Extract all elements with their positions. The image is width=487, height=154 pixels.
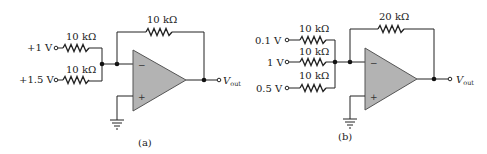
feedback-resistor-label-b: 20 kΩ bbox=[379, 11, 409, 22]
noninverting-sign: + bbox=[370, 92, 378, 102]
input-terminal-b-1 bbox=[285, 38, 289, 42]
ground-icon bbox=[110, 120, 124, 129]
resistor-label-b-2: 10 kΩ bbox=[299, 46, 329, 57]
input-voltage-a-2: +1.5 V bbox=[19, 74, 54, 85]
noninverting-sign: + bbox=[138, 92, 146, 102]
resistor-icon bbox=[378, 26, 404, 33]
resistor-icon bbox=[300, 59, 326, 66]
input-voltage-b-1: 0.1 V bbox=[255, 35, 282, 46]
resistor-icon bbox=[63, 77, 89, 84]
caption-b: (b) bbox=[338, 131, 352, 142]
input-voltage-a-1: +1 V bbox=[27, 42, 53, 53]
resistor-label-a-1: 10 kΩ bbox=[66, 31, 96, 42]
circuit-diagrams: +1 V 10 kΩ +1.5 V 10 kΩ 10 kΩ − + bbox=[0, 0, 487, 154]
junction-dot bbox=[333, 60, 338, 65]
caption-a: (a) bbox=[138, 137, 152, 148]
circuit-b: 0.1 V 10 kΩ 1 V 10 kΩ 0.5 V 10 kΩ 20 kΩ bbox=[255, 11, 474, 142]
junction-dot bbox=[202, 78, 207, 83]
resistor-label-a-2: 10 kΩ bbox=[66, 64, 96, 75]
input-terminal-a-2 bbox=[54, 78, 58, 82]
input-terminal-b-3 bbox=[285, 86, 289, 90]
resistor-label-b-1: 10 kΩ bbox=[299, 23, 329, 34]
resistor-label-b-3: 10 kΩ bbox=[299, 70, 329, 81]
resistor-icon bbox=[300, 85, 326, 92]
ground-icon bbox=[343, 119, 357, 128]
circuit-a: +1 V 10 kΩ +1.5 V 10 kΩ 10 kΩ − + bbox=[19, 14, 241, 148]
output-label-a: Vout bbox=[223, 75, 241, 88]
feedback-resistor-label-a: 10 kΩ bbox=[147, 14, 177, 25]
input-terminal-b-2 bbox=[285, 60, 289, 64]
input-voltage-b-2: 1 V bbox=[267, 57, 285, 68]
resistor-icon bbox=[300, 37, 326, 44]
resistor-icon bbox=[146, 29, 172, 36]
inverting-sign: − bbox=[138, 60, 146, 70]
output-label-b: Vout bbox=[456, 74, 474, 87]
inverting-sign: − bbox=[370, 58, 378, 68]
input-terminal-a-1 bbox=[54, 46, 58, 50]
resistor-icon bbox=[63, 45, 89, 52]
input-voltage-b-3: 0.5 V bbox=[256, 83, 283, 94]
output-terminal-a bbox=[217, 78, 221, 82]
output-terminal-b bbox=[448, 77, 452, 81]
junction-dot bbox=[100, 62, 105, 67]
junction-dot bbox=[432, 77, 437, 82]
